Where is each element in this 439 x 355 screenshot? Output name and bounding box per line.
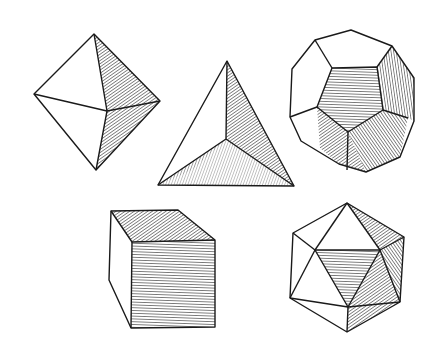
octahedron xyxy=(34,34,160,170)
dodecahedron xyxy=(290,30,414,172)
tetrahedron xyxy=(158,61,294,186)
icosahedron xyxy=(290,203,404,332)
platonic-solids-illustration xyxy=(0,0,439,355)
cube xyxy=(109,210,215,328)
